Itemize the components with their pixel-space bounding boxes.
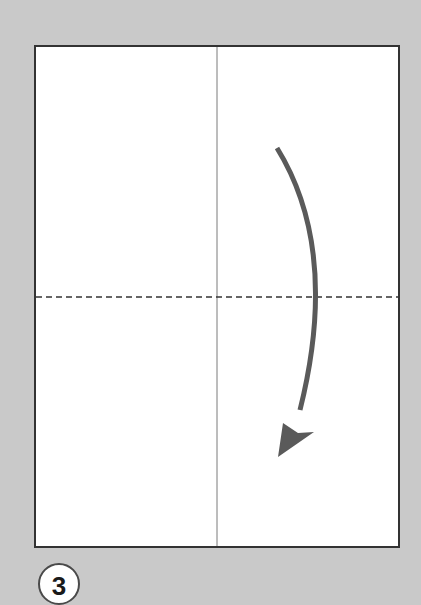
step-number-badge: 3: [38, 563, 80, 605]
step-number: 3: [52, 573, 66, 599]
